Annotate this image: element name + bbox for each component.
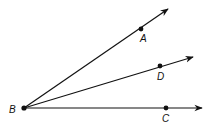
label-a: A: [139, 33, 147, 44]
label-b: B: [9, 104, 16, 115]
angle-diagram: B A D C: [0, 0, 217, 133]
ray-ba: [24, 9, 168, 108]
label-d: D: [157, 71, 164, 82]
label-c: C: [162, 113, 170, 124]
vertex-point-b: [21, 105, 26, 110]
point-a: [139, 27, 144, 32]
point-c: [164, 106, 169, 111]
diagram-canvas: B A D C: [0, 0, 217, 133]
ray-bd: [24, 57, 193, 108]
point-d: [158, 64, 163, 69]
